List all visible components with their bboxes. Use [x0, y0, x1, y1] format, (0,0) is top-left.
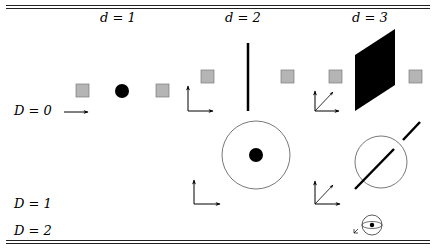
axes-3d-icon — [315, 181, 340, 204]
axes-2d-icon — [194, 180, 220, 204]
grey-square-icon — [201, 70, 214, 83]
grey-square-icon — [156, 84, 169, 97]
grey-square-icon — [76, 84, 89, 97]
sphere-icon — [362, 215, 382, 235]
diagram-canvas — [0, 0, 434, 250]
line-icon — [403, 122, 420, 140]
point-icon — [115, 84, 129, 98]
point-icon — [249, 148, 263, 162]
plane-icon — [355, 29, 395, 111]
axes-3d-icon — [315, 91, 339, 111]
axes-2d-icon — [188, 86, 213, 111]
line-icon — [355, 149, 394, 189]
grey-square-icon — [409, 70, 422, 83]
grey-square-icon — [329, 70, 342, 83]
grey-square-icon — [281, 70, 294, 83]
axes-3d-small-icon — [354, 229, 358, 233]
